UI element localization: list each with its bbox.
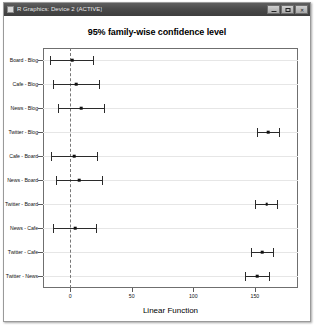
interval-cap-upper bbox=[97, 152, 98, 161]
window-title: R Graphics: Device 2 (ACTIVE) bbox=[17, 6, 102, 13]
minimize-button[interactable] bbox=[267, 5, 280, 14]
confidence-interval bbox=[245, 272, 270, 281]
interval-cap-upper bbox=[279, 128, 280, 137]
x-axis-tick-label: 150 bbox=[251, 293, 260, 299]
r-graphics-window: R Graphics: Device 2 (ACTIVE) ✕ 95% fami… bbox=[3, 2, 311, 322]
interval-cap-lower bbox=[245, 272, 246, 281]
r-graphics-icon bbox=[7, 6, 14, 13]
close-icon: ✕ bbox=[300, 7, 304, 12]
confidence-interval bbox=[53, 80, 100, 89]
interval-cap-lower bbox=[50, 56, 51, 65]
point-estimate bbox=[73, 155, 76, 158]
interval-cap-upper bbox=[104, 104, 105, 113]
y-axis-tick-label: News - Blog bbox=[11, 105, 38, 111]
interval-cap-lower bbox=[51, 152, 52, 161]
plot-area bbox=[43, 48, 298, 288]
x-axis: Linear Function 050100150 bbox=[43, 288, 298, 318]
window-controls: ✕ bbox=[267, 5, 308, 14]
point-estimate bbox=[78, 179, 81, 182]
x-axis-tick bbox=[132, 288, 133, 292]
x-axis-tick-label: 100 bbox=[189, 293, 198, 299]
interval-cap-lower bbox=[53, 80, 54, 89]
interval-cap-lower bbox=[257, 128, 258, 137]
interval-cap-upper bbox=[99, 80, 100, 89]
interval-cap-upper bbox=[93, 56, 94, 65]
point-estimate bbox=[265, 203, 268, 206]
y-axis-tick-label: Twitter - Cafe bbox=[8, 249, 38, 255]
interval-cap-upper bbox=[96, 224, 97, 233]
confidence-interval bbox=[251, 248, 274, 257]
point-estimate bbox=[256, 275, 259, 278]
interval-cap-upper bbox=[277, 200, 278, 209]
x-axis-tick bbox=[193, 288, 194, 292]
confidence-interval bbox=[50, 56, 93, 65]
x-axis-tick bbox=[70, 288, 71, 292]
point-estimate bbox=[71, 59, 74, 62]
interval-cap-lower bbox=[53, 224, 54, 233]
y-axis-tick-label: Cafe - Board bbox=[9, 153, 38, 159]
y-axis-tick-label: Twitter - News bbox=[6, 273, 38, 279]
x-axis-tick-label: 50 bbox=[129, 293, 135, 299]
x-axis-title: Linear Function bbox=[43, 306, 298, 315]
confidence-interval bbox=[58, 104, 105, 113]
point-estimate bbox=[74, 227, 77, 230]
minimize-icon bbox=[271, 11, 276, 12]
y-axis-labels: Board - BlogCafe - BlogNews - BlogTwitte… bbox=[4, 48, 38, 288]
x-axis-tick bbox=[255, 288, 256, 292]
interval-cap-lower bbox=[255, 200, 256, 209]
titlebar-left: R Graphics: Device 2 (ACTIVE) bbox=[7, 6, 267, 13]
interval-cap-lower bbox=[58, 104, 59, 113]
maximize-button[interactable] bbox=[281, 5, 294, 14]
y-axis-tick-label: Twitter - Blog bbox=[8, 129, 38, 135]
confidence-interval bbox=[51, 152, 98, 161]
y-axis-tick-label: News - Cafe bbox=[10, 225, 38, 231]
y-axis-tick-label: News - Board bbox=[7, 177, 38, 183]
interval-cap-upper bbox=[269, 272, 270, 281]
interval-cap-lower bbox=[251, 248, 252, 257]
point-estimate bbox=[80, 107, 83, 110]
x-axis-tick-label: 0 bbox=[69, 293, 72, 299]
confidence-interval bbox=[56, 176, 103, 185]
y-axis-tick-label: Board - Blog bbox=[10, 57, 38, 63]
point-estimate bbox=[261, 251, 264, 254]
y-axis-tick-label: Cafe - Blog bbox=[13, 81, 38, 87]
confidence-interval bbox=[53, 224, 96, 233]
window-titlebar[interactable]: R Graphics: Device 2 (ACTIVE) ✕ bbox=[4, 3, 310, 16]
interval-cap-upper bbox=[273, 248, 274, 257]
point-estimate bbox=[267, 131, 270, 134]
confidence-interval bbox=[257, 128, 279, 137]
interval-cap-upper bbox=[102, 176, 103, 185]
maximize-icon bbox=[285, 8, 290, 12]
plot-canvas: 95% family-wise confidence level Board -… bbox=[4, 16, 310, 321]
chart-title: 95% family-wise confidence level bbox=[4, 27, 310, 37]
y-axis-tick-label: Twitter - Board bbox=[5, 201, 38, 207]
confidence-interval bbox=[255, 200, 278, 209]
close-button[interactable]: ✕ bbox=[295, 5, 308, 14]
interval-cap-lower bbox=[56, 176, 57, 185]
point-estimate bbox=[75, 83, 78, 86]
